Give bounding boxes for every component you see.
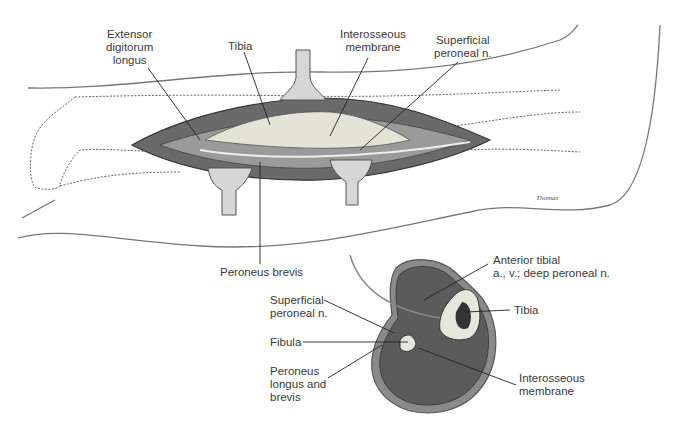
label-line: digitorum <box>106 41 153 54</box>
label-tibia-top: Tibia <box>228 40 253 53</box>
label-superficial-peroneal-cross: Superficial peroneal n. <box>270 294 328 320</box>
illustration-svg: Thomas <box>0 0 678 426</box>
label-line: longus and <box>270 378 326 391</box>
anatomical-illustration: Thomas Extensor digitorum longus Tibia I… <box>0 0 678 426</box>
svg-text:Thomas: Thomas <box>536 194 558 202</box>
label-line: Interosseous <box>519 372 585 385</box>
label-line: Superficial <box>270 294 328 307</box>
label-line: membrane <box>340 41 406 54</box>
incision <box>132 98 490 180</box>
label-peroneus-longus-brevis: Peroneus longus and brevis <box>270 365 326 404</box>
label-superficial-peroneal-top: Superficial peroneal n. <box>434 34 492 60</box>
label-line: Superficial <box>434 34 492 47</box>
label-tibia-cross: Tibia <box>514 304 539 317</box>
label-peroneus-brevis: Peroneus brevis <box>220 266 303 279</box>
label-line: Peroneus brevis <box>220 266 303 279</box>
label-line: peroneal n. <box>434 47 492 60</box>
label-line: Tibia <box>228 40 253 53</box>
label-interosseous-membrane-cross: Interosseous membrane <box>519 372 585 398</box>
label-line: a., v.; deep peroneal n. <box>493 267 610 280</box>
label-interosseous-membrane-top: Interosseous membrane <box>340 28 406 54</box>
label-line: Extensor <box>106 28 153 41</box>
label-anterior-tibial: Anterior tibial a., v.; deep peroneal n. <box>493 254 610 280</box>
label-fibula: Fibula <box>270 336 301 349</box>
label-line: Peroneus <box>270 365 326 378</box>
label-line: Interosseous <box>340 28 406 41</box>
label-line: longus <box>106 54 153 67</box>
label-line: brevis <box>270 391 326 404</box>
label-line: Tibia <box>514 304 539 317</box>
label-line: peroneal n. <box>270 307 328 320</box>
label-extensor-digitorum-longus: Extensor digitorum longus <box>106 28 153 67</box>
cross-section <box>350 255 496 413</box>
label-line: membrane <box>519 385 585 398</box>
label-line: Anterior tibial <box>493 254 610 267</box>
label-line: Fibula <box>270 336 301 349</box>
